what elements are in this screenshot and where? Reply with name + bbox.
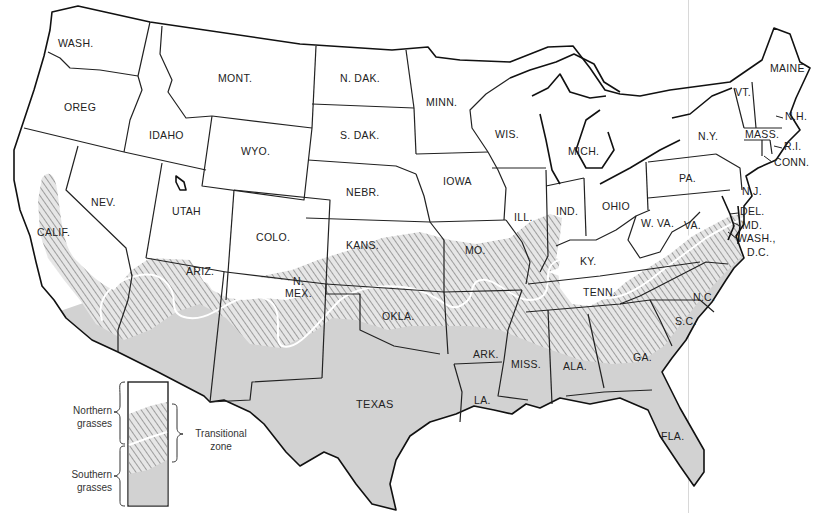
label-ind: IND. <box>556 205 578 217</box>
label-calif: CALIF. <box>37 226 70 238</box>
label-nh: N.H. <box>785 110 807 122</box>
label-dc-1: WASH., <box>737 232 776 244</box>
label-ark: ARK. <box>473 348 499 360</box>
legend-northern-label: Northern grasses <box>46 404 112 430</box>
label-sdak: S. DAK. <box>340 129 379 141</box>
label-ala: ALA. <box>563 360 587 372</box>
legend-transitional-label: Transitional zone <box>186 427 256 453</box>
label-utah: UTAH <box>172 205 201 217</box>
label-kans: KANS. <box>346 239 379 251</box>
label-oreg: OREG <box>64 101 96 113</box>
label-del: DEL. <box>740 205 765 217</box>
transitional-brace <box>172 404 183 462</box>
label-nev: NEV. <box>91 196 116 208</box>
label-nmex-1: N. <box>293 275 304 287</box>
label-texas: TEXAS <box>356 398 394 410</box>
label-wis: WIS. <box>495 128 519 140</box>
label-conn: CONN. <box>774 156 809 168</box>
legend <box>114 382 183 506</box>
label-ariz: ARIZ. <box>186 265 214 277</box>
us-grass-zone-map: WASH. OREG CALIF. NEV. IDAHO MONT. WYO. … <box>0 0 821 513</box>
legend-northern-line1: Northern <box>46 404 112 417</box>
label-mass: MASS. <box>745 128 779 140</box>
label-sc: S.C. <box>675 315 697 327</box>
label-minn: MINN. <box>426 96 457 108</box>
label-iowa: IOWA <box>443 175 472 187</box>
label-ndak: N. DAK. <box>340 72 380 84</box>
northern-brace <box>114 382 125 444</box>
label-idaho: IDAHO <box>149 129 184 141</box>
label-mont: MONT. <box>218 72 252 84</box>
legend-southern-line2: grasses <box>46 481 112 494</box>
label-colo: COLO. <box>256 231 290 243</box>
label-nmex-2: MEX. <box>285 287 312 299</box>
legend-transitional-line1: Transitional <box>186 427 256 440</box>
label-nebr: NEBR. <box>346 186 380 198</box>
label-ohio: OHIO <box>602 200 630 212</box>
legend-southern-line1: Southern <box>46 468 112 481</box>
label-wyo: WYO. <box>241 145 270 157</box>
label-dc-2: D.C. <box>747 246 769 258</box>
label-maine: MAINE <box>770 62 805 74</box>
label-pa: PA. <box>679 172 696 184</box>
legend-transitional-line2: zone <box>186 440 256 453</box>
label-ky: KY. <box>580 255 596 267</box>
label-okla: OKLA. <box>382 310 414 322</box>
southern-brace <box>114 446 125 506</box>
label-ny: N.Y. <box>698 130 718 142</box>
label-vt: VT. <box>735 86 751 98</box>
label-ri: R.I. <box>784 140 802 152</box>
label-mich: MICH. <box>568 145 599 157</box>
legend-northern-line2: grasses <box>46 417 112 430</box>
label-fla: FLA. <box>661 430 684 442</box>
label-ga: GA. <box>633 351 652 363</box>
label-nj: N.J. <box>742 185 762 197</box>
label-nc: N.C. <box>693 291 715 303</box>
label-va: VA. <box>684 219 701 231</box>
label-la: LA. <box>474 394 491 406</box>
label-wva: W. VA. <box>641 217 674 229</box>
legend-southern-label: Southern grasses <box>46 468 112 494</box>
label-wash: WASH. <box>58 37 94 49</box>
label-mo: MO. <box>465 244 486 256</box>
label-miss: MISS. <box>511 358 541 370</box>
label-tenn: TENN. <box>583 286 616 298</box>
label-md: MD. <box>742 219 762 231</box>
label-ill: ILL. <box>514 211 533 223</box>
